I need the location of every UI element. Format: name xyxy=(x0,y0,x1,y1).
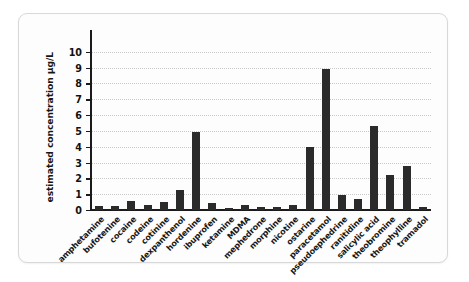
bar[interactable] xyxy=(127,201,135,210)
bar-slot xyxy=(334,39,350,210)
y-tick-mark xyxy=(86,52,91,53)
bar[interactable] xyxy=(111,206,119,210)
y-tick-mark xyxy=(86,178,91,179)
bar-slot xyxy=(188,39,204,210)
y-tick-label: 1 xyxy=(56,189,82,200)
y-tick-mark xyxy=(86,147,91,148)
bar-slot xyxy=(237,39,253,210)
bar[interactable] xyxy=(160,202,168,210)
y-tick-label: 0 xyxy=(56,205,82,216)
bar[interactable] xyxy=(370,126,378,210)
bar[interactable] xyxy=(95,206,103,210)
y-tick-label: 6 xyxy=(56,110,82,121)
y-tick-label: 7 xyxy=(56,94,82,105)
y-tick-mark xyxy=(86,163,91,164)
bar[interactable] xyxy=(354,199,362,210)
bar-slot xyxy=(399,39,415,210)
bar[interactable] xyxy=(386,175,394,210)
y-tick-label: 3 xyxy=(56,157,82,168)
bar-slot xyxy=(123,39,139,210)
y-tick-label: 2 xyxy=(56,173,82,184)
bar-slot xyxy=(172,39,188,210)
y-tick-label: 8 xyxy=(56,78,82,89)
bar[interactable] xyxy=(241,205,249,210)
y-tick-label: 10 xyxy=(56,46,82,57)
bar[interactable] xyxy=(322,69,330,210)
bar-slot xyxy=(415,39,431,210)
bar[interactable] xyxy=(176,190,184,210)
x-label-slot: cocaine xyxy=(123,212,139,282)
chart-card: estimated concentration µg/L 01234567891… xyxy=(18,13,448,263)
bar[interactable] xyxy=(419,207,427,210)
bar-series xyxy=(91,39,431,210)
bar[interactable] xyxy=(208,203,216,210)
bar[interactable] xyxy=(257,207,265,210)
y-tick-label: 5 xyxy=(56,125,82,136)
bar-slot xyxy=(350,39,366,210)
y-tick-mark xyxy=(86,194,91,195)
bar-slot xyxy=(301,39,317,210)
bar[interactable] xyxy=(306,147,314,210)
bar-slot xyxy=(285,39,301,210)
y-tick-mark xyxy=(86,83,91,84)
plot-area: 012345678910 xyxy=(91,39,431,210)
y-tick-label: 4 xyxy=(56,141,82,152)
bar[interactable] xyxy=(225,208,233,210)
y-tick-mark xyxy=(86,115,91,116)
bar[interactable] xyxy=(338,195,346,210)
y-axis-title: estimated concentration µg/L xyxy=(44,53,55,203)
x-axis-labels: amphetaminebufoteninecocainecodeinecotin… xyxy=(91,212,431,282)
y-tick-mark xyxy=(86,131,91,132)
bar-slot xyxy=(204,39,220,210)
chart-plot-wrapper: estimated concentration µg/L 01234567891… xyxy=(19,14,449,264)
bar-slot xyxy=(269,39,285,210)
x-label-slot: tramadol xyxy=(415,212,431,282)
bar[interactable] xyxy=(144,205,152,210)
bar-slot xyxy=(366,39,382,210)
y-tick-mark xyxy=(86,68,91,69)
bar-slot xyxy=(91,39,107,210)
bar-slot xyxy=(382,39,398,210)
y-tick-label: 9 xyxy=(56,62,82,73)
bar-slot xyxy=(140,39,156,210)
bar-slot xyxy=(253,39,269,210)
bar[interactable] xyxy=(403,166,411,210)
bar-slot xyxy=(156,39,172,210)
bar-slot xyxy=(107,39,123,210)
y-tick-mark xyxy=(86,99,91,100)
bar[interactable] xyxy=(289,205,297,210)
bar[interactable] xyxy=(192,132,200,210)
bar-slot xyxy=(221,39,237,210)
bar-slot xyxy=(318,39,334,210)
bar[interactable] xyxy=(273,207,281,210)
